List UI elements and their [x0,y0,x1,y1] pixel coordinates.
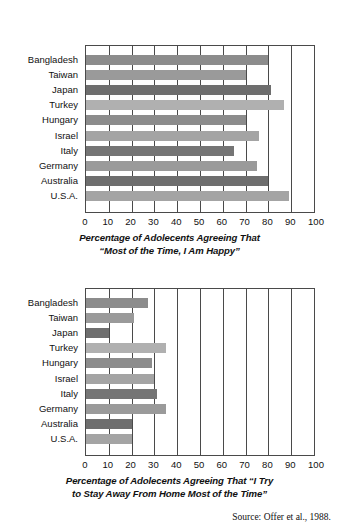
x-tick-80: 80 [262,216,273,228]
x-tick-50: 50 [194,459,205,471]
x-tick-0: 0 [82,459,87,471]
bar-japan [86,85,271,95]
bar-row [86,70,314,80]
category-label-hungary: Hungary [42,115,78,125]
caption-line-1: Percentage of Adolecents Agreeing That [0,232,339,245]
x-tick-100: 100 [308,216,324,228]
plot-area-away [85,288,315,456]
x-tick-70: 70 [239,216,250,228]
category-label-turkey: Turkey [49,100,78,110]
caption-away: Percentage of Adolecents Agreeing That “… [0,475,339,500]
bar-taiwan [86,70,246,80]
x-tick-10: 10 [103,459,114,471]
caption-line-2: to Stay Away From Home Most of the Time” [0,488,339,501]
bar-row [86,55,314,65]
x-tick-90: 90 [285,459,296,471]
category-label-japan: Japan [52,328,78,338]
category-label-usa: U.S.A. [51,191,78,201]
caption-line-2: “Most of the Time, I Am Happy” [0,245,339,258]
bar-row [86,374,314,384]
caption-line-1: Percentage of Adolecents Agreeing That “… [0,475,339,488]
bar-row [86,434,314,444]
bar-japan [86,328,109,338]
cut-off-header-text [150,0,330,4]
bar-row [86,161,314,171]
bar-israel [86,374,154,384]
x-tick-40: 40 [171,216,182,228]
bar-israel [86,131,259,141]
bar-usa [86,434,132,444]
category-label-taiwan: Taiwan [48,313,78,323]
bar-row [86,100,314,110]
bar-australia [86,419,132,429]
bar-row [86,358,314,368]
x-axis-ticks-happy: 0102030405060708090100 [85,216,313,228]
bar-turkey [86,100,284,110]
category-label-usa: U.S.A. [51,434,78,444]
category-label-bangladesh: Bangladesh [28,298,78,308]
bar-germany [86,161,257,171]
x-tick-20: 20 [125,459,136,471]
plot-area-happy [85,45,315,213]
source-note: Source: Offer et al., 1988. [232,512,331,522]
x-tick-30: 30 [148,216,159,228]
bar-row [86,404,314,414]
x-tick-70: 70 [239,459,250,471]
category-label-germany: Germany [39,404,78,414]
bar-australia [86,176,268,186]
bar-row [86,131,314,141]
bar-germany [86,404,166,414]
x-tick-20: 20 [125,216,136,228]
bar-row [86,85,314,95]
bars-away [86,289,314,455]
x-tick-10: 10 [103,216,114,228]
x-tick-30: 30 [148,459,159,471]
bar-row [86,115,314,125]
bar-row [86,176,314,186]
bars-happy [86,46,314,212]
category-label-israel: Israel [55,131,78,141]
figure-page: BangladeshTaiwanJapanTurkeyHungaryIsrael… [0,0,339,529]
category-label-turkey: Turkey [49,343,78,353]
category-label-bangladesh: Bangladesh [28,55,78,65]
category-label-japan: Japan [52,85,78,95]
bar-bangladesh [86,55,268,65]
bar-turkey [86,343,166,353]
bar-row [86,146,314,156]
bar-row [86,313,314,323]
x-tick-100: 100 [308,459,324,471]
x-tick-60: 60 [217,216,228,228]
bar-row [86,328,314,338]
bar-italy [86,389,157,399]
category-label-australia: Australia [41,419,78,429]
category-label-hungary: Hungary [42,358,78,368]
x-tick-90: 90 [285,216,296,228]
bar-row [86,419,314,429]
bar-row [86,389,314,399]
x-tick-0: 0 [82,216,87,228]
category-label-australia: Australia [41,176,78,186]
bar-row [86,343,314,353]
category-label-italy: Italy [61,389,78,399]
bar-row [86,191,314,201]
x-tick-40: 40 [171,459,182,471]
x-tick-80: 80 [262,459,273,471]
bar-usa [86,191,289,201]
caption-happy: Percentage of Adolecents Agreeing That “… [0,232,339,257]
bar-italy [86,146,234,156]
category-label-italy: Italy [61,146,78,156]
category-label-israel: Israel [55,374,78,384]
x-axis-ticks-away: 0102030405060708090100 [85,459,313,471]
category-label-taiwan: Taiwan [48,70,78,80]
x-tick-60: 60 [217,459,228,471]
bar-hungary [86,115,246,125]
bar-taiwan [86,313,134,323]
bar-hungary [86,358,152,368]
bar-row [86,298,314,308]
category-label-germany: Germany [39,161,78,171]
bar-bangladesh [86,298,148,308]
x-tick-50: 50 [194,216,205,228]
